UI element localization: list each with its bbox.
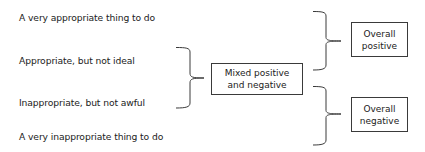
brace-negative-icon — [313, 87, 341, 146]
brace-positive-icon — [313, 12, 341, 71]
group-box-positive: Overall positive — [351, 22, 408, 57]
group-mixed-line2: and negative — [225, 79, 290, 91]
group-box-negative: Overall negative — [351, 97, 408, 132]
group-mixed-line1: Mixed positive — [225, 67, 290, 79]
group-negative-line1: Overall — [360, 103, 399, 115]
brace-mixed-icon — [176, 48, 204, 109]
group-positive-line2: positive — [362, 40, 397, 52]
group-positive-line1: Overall — [362, 28, 397, 40]
group-negative-line2: negative — [360, 115, 399, 127]
group-box-mixed: Mixed positive and negative — [211, 63, 303, 95]
